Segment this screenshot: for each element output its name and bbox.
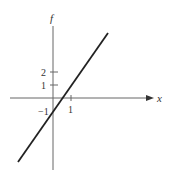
y-tick-label-1: 1 [41,80,46,91]
x-tick-label-1: 1 [68,104,73,115]
x-axis-arrow-icon [146,95,154,101]
x-axis-label: x [156,92,162,104]
y-tick-label-2: 2 [41,67,46,78]
y-tick-label-neg1: −1 [38,106,49,117]
y-axis-label: f [50,12,55,24]
function-plot: x f 2 1 −1 1 [0,0,172,176]
